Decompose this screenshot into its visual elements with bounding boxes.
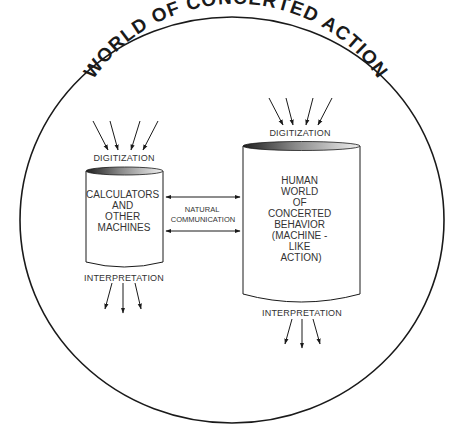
right-digitization-arrows [269,98,332,125]
world-title: WORLD OF CONCERTED ACTION [79,0,392,82]
right-digitization-label: DIGITIZATION [269,128,330,138]
right-interpretation-label: INTERPRETATION [262,308,342,318]
natural-communication-label: NATURAL COMMUNICATION [171,205,235,224]
natural-communication-link: NATURAL COMMUNICATION [166,197,240,231]
left-digitization-arrows [93,121,158,150]
right-cylinder-cap [243,142,360,151]
diagram-canvas: WORLD OF CONCERTED ACTION DIGITIZATION C… [0,0,463,438]
left-cylinder: DIGITIZATION CALCULATORS AND OTHER MACHI… [84,121,164,313]
right-interpretation-arrows [285,319,320,348]
left-cylinder-cap [86,167,163,175]
right-cylinder: DIGITIZATION HUMAN WORLD OF CONCERTED BE… [243,98,360,348]
left-interpretation-arrows [105,283,141,313]
left-digitization-label: DIGITIZATION [93,153,154,163]
left-interpretation-label: INTERPRETATION [84,273,164,283]
